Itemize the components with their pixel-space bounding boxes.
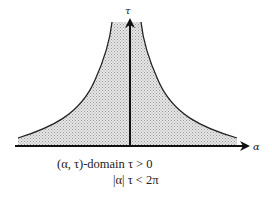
domain-caption-line2: |α| τ < 2π: [113, 173, 159, 188]
alpha-axis-label: α: [253, 141, 260, 152]
domain-caption-line1: (α, τ)-domain τ > 0: [57, 157, 153, 172]
tau-axis-label: τ: [125, 5, 131, 16]
shaded-domain-region: [18, 22, 237, 146]
